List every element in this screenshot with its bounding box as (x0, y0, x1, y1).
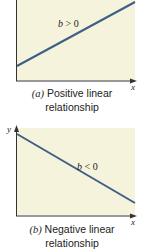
caption-line-1: Positive linear (47, 87, 112, 99)
slope-label: b > 0 (58, 18, 79, 29)
y-axis-label: y (6, 124, 11, 134)
plot-area (17, 128, 135, 215)
caption-line-1: Negative linear (45, 223, 115, 235)
negative-linear-panel: y x b < 0 (b) Negative linear relationsh… (0, 122, 144, 250)
caption-b: (b) Negative linear relationship (0, 223, 144, 249)
panel-letter: (a) (32, 88, 44, 99)
panel-letter: (b) (29, 224, 41, 235)
caption-a: (a) Positive linear relationship (0, 87, 144, 113)
caption-line-2: relationship (0, 237, 144, 250)
slope-label: b < 0 (77, 161, 98, 172)
positive-linear-panel: x b > 0 (a) Positive linear relationship (0, 0, 144, 122)
caption-line-2: relationship (0, 101, 144, 114)
